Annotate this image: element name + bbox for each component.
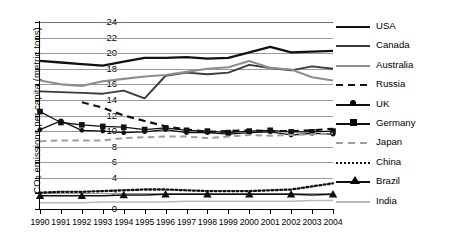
series-line-usa — [40, 47, 333, 66]
x-axis-tick-mark — [249, 209, 250, 214]
series-marker-germany — [205, 128, 211, 134]
x-axis-tick-mark — [207, 209, 208, 214]
series-marker-germany — [184, 128, 190, 134]
series-marker-germany — [246, 128, 252, 134]
series-marker-germany — [226, 130, 232, 136]
x-axis-tick-mark — [145, 209, 146, 214]
x-axis-tick-mark — [82, 209, 83, 214]
legend-item-india[interactable]: India — [336, 193, 454, 212]
legend-item-usa[interactable]: USA — [336, 18, 454, 37]
series-marker-germany — [100, 124, 106, 130]
legend-item-germany[interactable]: Germany — [336, 115, 454, 134]
legend-swatch-canada — [336, 45, 370, 47]
series-marker-uk — [121, 130, 126, 135]
series-line-china — [40, 183, 333, 192]
legend-item-australia[interactable]: Australia — [336, 57, 454, 76]
legend-label-germany: Germany — [376, 117, 415, 128]
legend-swatch-usa — [336, 26, 370, 28]
x-axis-tick-mark — [270, 209, 271, 214]
series-marker-germany — [37, 109, 43, 115]
legend-label-canada: Canada — [376, 39, 410, 50]
legend-item-russia[interactable]: Russia — [336, 76, 454, 95]
legend-swatch-india — [336, 201, 370, 203]
legend-swatch-russia — [336, 84, 370, 86]
series-lines — [40, 22, 333, 209]
legend-item-brazil[interactable]: Brazil — [336, 173, 454, 192]
series-marker-uk — [38, 127, 43, 132]
series-marker-germany — [163, 125, 169, 131]
legend-swatch-china — [336, 162, 370, 164]
series-marker-germany — [142, 127, 148, 133]
legend-label-australia: Australia — [376, 59, 413, 70]
series-marker-germany — [79, 122, 85, 128]
x-axis-tick-mark — [228, 209, 229, 214]
x-axis-tick-mark — [291, 209, 292, 214]
legend-label-brazil: Brazil — [376, 175, 400, 186]
series-marker-germany — [58, 120, 64, 126]
legend-marker-brazil — [350, 176, 360, 184]
series-marker-uk — [79, 128, 84, 133]
chart-figure: CO2 emissions per capita (metric tons) 0… — [0, 0, 454, 251]
series-marker-uk — [100, 129, 105, 134]
x-axis-tick-mark — [312, 209, 313, 214]
legend-label-usa: USA — [376, 20, 396, 31]
x-axis-tick-label: 2004 — [313, 217, 353, 227]
legend-label-russia: Russia — [376, 78, 405, 89]
series-marker-germany — [288, 129, 294, 135]
plot-area — [40, 22, 333, 209]
legend-swatch-japan — [336, 142, 370, 144]
x-axis-tick-mark — [333, 209, 334, 214]
x-axis-tick-mark — [187, 209, 188, 214]
legend-marker-germany — [350, 119, 357, 126]
legend-item-uk[interactable]: UK — [336, 96, 454, 115]
x-axis-tick-mark — [124, 209, 125, 214]
series-marker-germany — [267, 128, 273, 134]
x-axis-tick-mark — [61, 209, 62, 214]
legend-item-china[interactable]: China — [336, 154, 454, 173]
series-line-india — [40, 200, 333, 202]
legend-item-canada[interactable]: Canada — [336, 37, 454, 56]
legend-swatch-australia — [336, 65, 370, 67]
chart-legend: USACanadaAustraliaRussiaUKGermanyJapanCh… — [336, 18, 454, 212]
series-marker-germany — [121, 124, 127, 130]
legend-label-uk: UK — [376, 98, 389, 109]
x-axis-tick-mark — [40, 209, 41, 214]
x-axis-tick-mark — [103, 209, 104, 214]
legend-label-china: China — [376, 156, 401, 167]
legend-label-india: India — [376, 195, 397, 206]
legend-label-japan: Japan — [376, 136, 402, 147]
series-marker-germany — [330, 128, 336, 134]
x-axis-tick-mark — [166, 209, 167, 214]
legend-item-japan[interactable]: Japan — [336, 134, 454, 153]
